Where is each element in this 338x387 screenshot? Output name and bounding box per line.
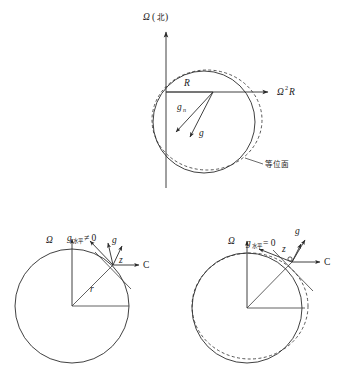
radius-label-top: R (183, 78, 190, 88)
bottom-left-panel: Ω g 水平 ≠ 0 g z C r (15, 233, 149, 363)
gravity-vector-left (108, 243, 113, 265)
top-panel: Ω ( 北 ) Ω 2 R R g n g 等位面 (143, 12, 295, 188)
g-horizontal-relation-right: = 0 (263, 238, 276, 248)
tangent-line-left (95, 252, 131, 289)
gravity-newton-subscript: n (183, 106, 186, 113)
gravity-newton-label: g (177, 102, 182, 112)
g-horizontal-label-right: g (246, 238, 251, 248)
gravity-label-right: g (295, 226, 300, 236)
north-label-top: 北 (157, 13, 165, 22)
tangent-line-right (273, 250, 313, 291)
omega-sq-r-tail: R (288, 87, 295, 97)
omega-sq-exponent: 2 (285, 84, 288, 91)
radius-segment-right (247, 262, 292, 308)
gravity-label-left: g (112, 235, 117, 245)
g-horizontal-subscript-right: 水平 (252, 242, 263, 250)
g-horizontal-label-left: g (67, 233, 72, 243)
omega-label-top: Ω (143, 12, 150, 22)
omega-sq-r-label: Ω (277, 87, 284, 97)
radius-label-left: r (90, 284, 94, 294)
gravity-label-top: g (199, 128, 204, 138)
equipotential-leader (245, 158, 263, 164)
omega-paren-close-top: ) (165, 12, 168, 23)
omega-label-left: Ω (46, 235, 53, 245)
c-axis-label-left: C (143, 260, 149, 270)
geopotential-diagram-svg: Ω ( 北 ) Ω 2 R R g n g 等位面 Ω (0, 0, 338, 387)
earth-circle-top (153, 71, 255, 173)
equipotential-caption: 等位面 (265, 159, 289, 169)
gravity-newton-vector (176, 92, 213, 132)
z-axis-label-right: z (281, 244, 286, 254)
g-horizontal-relation-left: ≠ 0 (84, 233, 97, 243)
omega-label-right: Ω (228, 236, 235, 246)
c-axis-label-right: C (324, 257, 330, 267)
bottom-right-panel: Ω g 水平 = 0 g z C (192, 226, 330, 363)
diagram-canvas: Ω ( 北 ) Ω 2 R R g n g 等位面 Ω (0, 0, 338, 387)
omega-paren-open-top: ( (152, 12, 155, 23)
equipotential-ellipse-right (192, 253, 308, 359)
z-axis-label-left: z (118, 255, 123, 265)
g-horizontal-subscript-left: 水平 (73, 237, 84, 245)
surface-point-marker-right (288, 257, 292, 261)
z-axis-vector-right (292, 244, 301, 262)
